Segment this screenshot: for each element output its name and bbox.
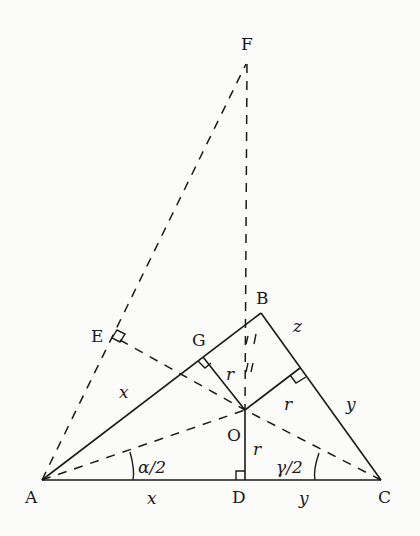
label-od: r: [253, 439, 262, 459]
label-e: E: [91, 326, 103, 346]
label-b: B: [256, 288, 269, 308]
label-ag: x: [119, 382, 129, 402]
label-d: D: [232, 487, 246, 507]
label-dc: y: [298, 488, 309, 508]
right-angle-g: [198, 361, 211, 368]
right-angle-d: [236, 471, 245, 480]
label-angle-c: γ/2: [276, 457, 303, 477]
side-bc: [261, 313, 381, 480]
dashed-af: [42, 64, 246, 480]
side-ab: [42, 313, 261, 480]
angle-arc-c: [315, 453, 320, 480]
label-ad: x: [147, 488, 157, 508]
label-a: A: [24, 487, 38, 507]
label-hc: y: [345, 394, 356, 414]
label-f: F: [241, 34, 253, 54]
label-angle-a: α/2: [138, 457, 166, 477]
diagram-svg: F B E G O A D C x x z y y r r r α/2 γ/2: [0, 0, 420, 536]
right-angle-e: [112, 330, 125, 342]
label-g: G: [192, 330, 206, 350]
bisector-co: [245, 410, 381, 480]
angle-arc-a: [130, 452, 134, 480]
label-bh: z: [292, 316, 303, 336]
incircle-diagram: F B E G O A D C x x z y y r r r α/2 γ/2: [0, 0, 420, 536]
label-og: r: [226, 364, 235, 384]
label-o: O: [227, 425, 241, 445]
label-oh: r: [284, 394, 293, 414]
label-c: C: [378, 487, 391, 507]
dashed-fo: [245, 64, 247, 410]
right-angle-h: [290, 375, 306, 383]
